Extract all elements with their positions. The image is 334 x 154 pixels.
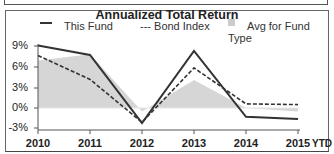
plot-area [0,0,334,154]
avg-fund-type-area [38,54,298,111]
